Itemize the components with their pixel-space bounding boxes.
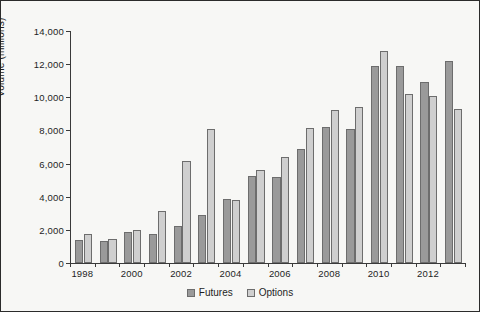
bar-group — [193, 31, 218, 263]
bar-options-2010 — [380, 51, 388, 263]
x-axis-tick — [243, 263, 244, 267]
bar-futures-2011 — [396, 66, 404, 263]
x-axis-tick-label: 2008 — [318, 268, 340, 279]
bar-group — [218, 31, 243, 263]
bar-futures-2004 — [223, 199, 231, 263]
bar-group — [144, 31, 169, 263]
x-axis-tick — [193, 263, 194, 267]
y-axis-tick-label: 10,000 — [34, 92, 64, 103]
y-axis-tick-label: 8,000 — [39, 125, 64, 136]
bar-group — [366, 31, 391, 263]
bar-options-2009 — [355, 107, 363, 263]
x-axis-tick — [440, 263, 441, 267]
x-axis-tick — [70, 263, 71, 267]
bar-futures-2005 — [248, 176, 256, 263]
bar-options-2000 — [133, 230, 141, 263]
bar-futures-2007 — [297, 149, 305, 263]
x-axis-tick — [342, 263, 343, 267]
plot-area: 19982000200220042006200820102012 — [70, 31, 465, 263]
y-axis-labels: 02,0004,0006,0008,00010,00012,00014,000 — [1, 31, 64, 263]
bar-futures-2006 — [272, 177, 280, 263]
y-axis-tick — [66, 97, 70, 98]
bar-futures-2012 — [420, 82, 428, 263]
bar-group — [268, 31, 293, 263]
y-axis-tick-label: 6,000 — [39, 158, 64, 169]
x-axis-tick — [169, 263, 170, 267]
legend-label-options: Options — [259, 287, 293, 298]
futures-swatch-icon — [187, 289, 195, 297]
bar-futures-2001 — [149, 234, 157, 263]
x-axis-tick-label: 2002 — [170, 268, 192, 279]
y-axis-tick — [66, 230, 70, 231]
bar-group — [70, 31, 95, 263]
y-axis-tick-label: 12,000 — [34, 59, 64, 70]
y-axis-title: Volume (millions) — [0, 0, 6, 97]
options-swatch-icon — [247, 289, 255, 297]
bar-group — [119, 31, 144, 263]
bar-group — [440, 31, 465, 263]
bar-options-1999 — [108, 239, 116, 263]
bar-group — [391, 31, 416, 263]
legend-item-options: Options — [247, 287, 293, 298]
x-axis-tick-label: 1998 — [71, 268, 93, 279]
bar-futures-2008 — [322, 127, 330, 263]
y-axis-tick-label: 0 — [59, 258, 64, 269]
x-axis-tick — [95, 263, 96, 267]
bar-options-2013 — [454, 109, 462, 263]
x-axis-tick — [391, 263, 392, 267]
legend-label-futures: Futures — [199, 287, 233, 298]
bar-options-2008 — [331, 110, 339, 263]
bar-options-2001 — [158, 211, 166, 263]
chart-legend: Futures Options — [1, 287, 479, 298]
legend-item-futures: Futures — [187, 287, 233, 298]
bar-group — [342, 31, 367, 263]
x-axis-tick — [144, 263, 145, 267]
bar-options-2012 — [429, 96, 437, 263]
bar-options-2011 — [405, 94, 413, 263]
bar-options-2002 — [182, 161, 190, 263]
chart-frame: 02,0004,0006,0008,00010,00012,00014,000 … — [0, 0, 480, 312]
y-axis-tick-label: 2,000 — [39, 224, 64, 235]
y-axis-tick-label: 4,000 — [39, 191, 64, 202]
x-axis-tick-label: 2000 — [121, 268, 143, 279]
bar-group — [292, 31, 317, 263]
y-axis-tick — [66, 263, 70, 264]
bar-group — [317, 31, 342, 263]
x-axis-tick-label: 2010 — [368, 268, 390, 279]
bar-group — [243, 31, 268, 263]
y-axis-tick — [66, 197, 70, 198]
bar-group — [416, 31, 441, 263]
x-axis-tick-label: 2006 — [269, 268, 291, 279]
bar-group — [95, 31, 120, 263]
y-axis-tick — [66, 130, 70, 131]
bar-options-2005 — [256, 170, 264, 263]
bar-futures-2013 — [445, 61, 453, 263]
x-axis-tick — [416, 263, 417, 267]
bar-options-1998 — [84, 234, 92, 263]
bar-group — [169, 31, 194, 263]
x-axis-tick — [317, 263, 318, 267]
bar-futures-2010 — [371, 66, 379, 263]
bar-options-2003 — [207, 129, 215, 263]
x-axis-tick-label: 2004 — [220, 268, 242, 279]
x-axis-tick — [218, 263, 219, 267]
bar-futures-1998 — [75, 240, 83, 263]
bar-options-2006 — [281, 157, 289, 263]
y-axis-tick — [66, 164, 70, 165]
y-axis-tick — [66, 64, 70, 65]
bar-options-2007 — [306, 128, 314, 263]
y-axis-tick-label: 14,000 — [34, 26, 64, 37]
bar-futures-2002 — [174, 226, 182, 263]
x-axis-tick-label: 2012 — [417, 268, 439, 279]
x-axis-tick — [119, 263, 120, 267]
y-axis-tick — [66, 31, 70, 32]
bar-futures-1999 — [100, 241, 108, 263]
bar-futures-2000 — [124, 232, 132, 263]
bar-futures-2003 — [198, 215, 206, 263]
x-axis-tick — [292, 263, 293, 267]
x-axis-tick — [366, 263, 367, 267]
x-axis-tick — [465, 263, 466, 267]
x-axis-tick — [268, 263, 269, 267]
bar-futures-2009 — [346, 129, 354, 263]
bar-options-2004 — [232, 200, 240, 263]
